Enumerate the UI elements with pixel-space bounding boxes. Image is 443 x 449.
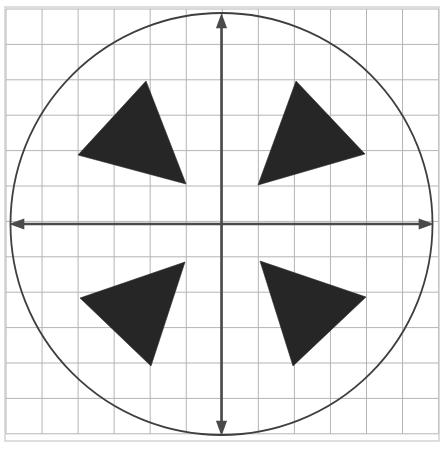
symmetry-figure [0, 0, 443, 449]
